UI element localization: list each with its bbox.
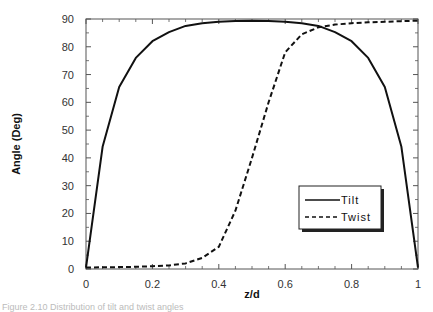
chart: Angle (Deg) 0102030405060708090 00.20.40… — [0, 0, 433, 312]
y-tick-label: 50 — [62, 124, 74, 136]
legend-label-tilt: Tilt — [341, 194, 359, 206]
x-tick-label: 0.8 — [344, 278, 359, 290]
x-tick-label: 0.4 — [211, 278, 226, 290]
x-tick-label: 1 — [415, 278, 421, 290]
legend-label-twist: Twist — [341, 211, 371, 223]
y-tick-label: 70 — [62, 69, 74, 81]
svg-text:Angle (Deg): Angle (Deg) — [10, 113, 22, 175]
x-tick-label: 0.6 — [278, 278, 293, 290]
y-tick-label: 0 — [68, 263, 74, 275]
y-tick-label: 80 — [62, 41, 74, 53]
figure-caption: Figure 2.10 Distribution of tilt and twi… — [2, 302, 184, 312]
y-tick-label: 40 — [62, 152, 74, 164]
y-tick-label: 30 — [62, 180, 74, 192]
x-tick-label: 0 — [83, 278, 89, 290]
y-tick-label: 10 — [62, 235, 74, 247]
y-axis-title: Angle (Deg) — [10, 113, 22, 175]
legend: Tilt Twist — [299, 186, 384, 232]
x-tick-label: 0.2 — [145, 278, 160, 290]
y-axis: 0102030405060708090 — [62, 13, 418, 275]
x-axis-title: z/d — [244, 288, 259, 300]
y-tick-label: 60 — [62, 96, 74, 108]
y-tick-label: 20 — [62, 207, 74, 219]
y-tick-label: 90 — [62, 13, 74, 25]
